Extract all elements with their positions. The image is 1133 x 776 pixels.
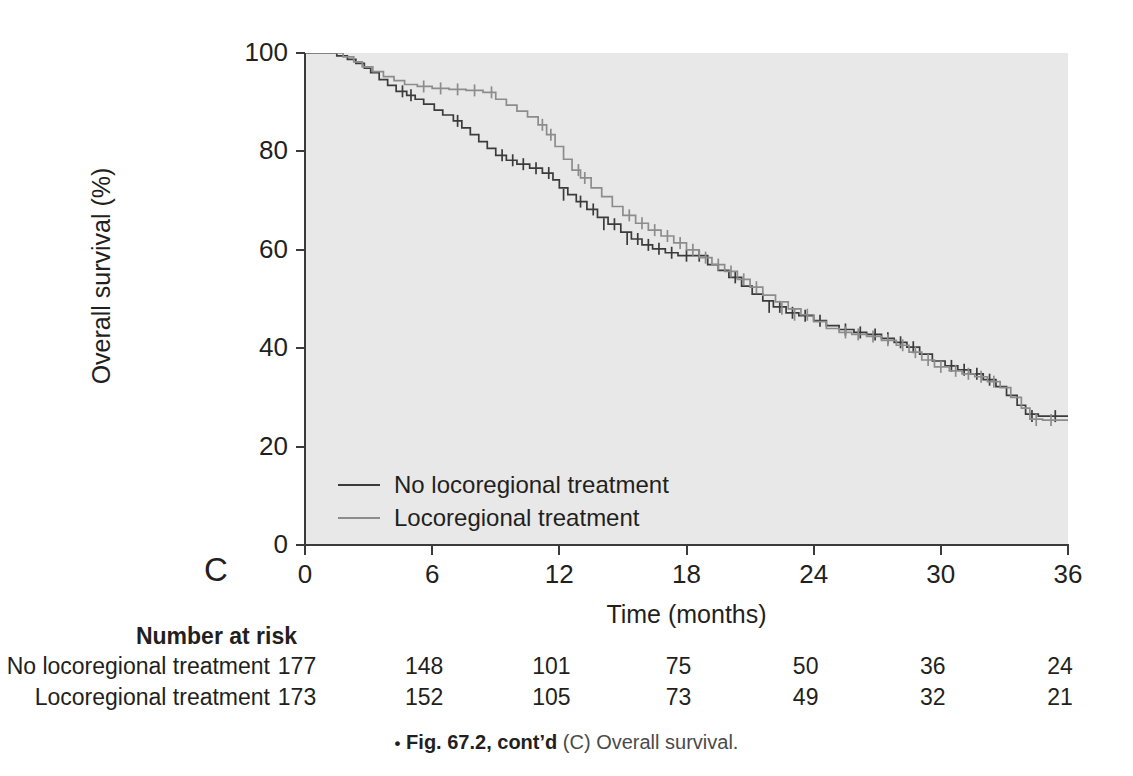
y-axis-title: Overall survival (%) [87,106,115,446]
x-axis-tick-label: 0 [275,559,335,589]
number-at-risk-row-label: Locoregional treatment [0,683,270,712]
number-at-risk-row: No locoregional treatment177148101755036… [0,652,1133,683]
x-axis-tick-label: 30 [911,559,971,589]
y-axis-tick-label: 0 [230,531,288,557]
panel-letter: C [204,552,228,588]
x-axis-tick-label: 12 [529,559,589,589]
number-at-risk-value: 177 [262,652,332,681]
x-axis-tick-label: 24 [784,559,844,589]
legend-swatch-no-locoregional [338,484,380,486]
y-axis-tick-label: 60 [230,236,288,262]
survival-curve [305,53,1068,416]
number-at-risk-value: 105 [516,683,586,712]
y-axis-tick [296,52,305,54]
x-axis-tick [304,546,306,555]
number-at-risk-value: 36 [898,652,968,681]
caption-text: (C) Overall survival. [563,731,739,753]
caption-figure-number: Fig. 67.2, cont’d [406,731,557,753]
y-axis-tick-label: 80 [230,137,288,163]
legend-label-locoregional: Locoregional treatment [394,502,639,533]
x-axis-tick-label: 36 [1038,559,1098,589]
x-axis-tick [686,546,688,555]
x-axis-tick [940,546,942,555]
number-at-risk-row: Locoregional treatment17315210573493221 [0,683,1133,714]
legend-item: Locoregional treatment [338,502,758,535]
y-axis-tick-label: 40 [230,334,288,360]
number-at-risk-value: 148 [389,652,459,681]
number-at-risk-value: 24 [1025,652,1095,681]
y-axis-line [304,53,306,546]
y-axis-tick-label: 20 [230,433,288,459]
x-axis-tick-label: 6 [402,559,462,589]
number-at-risk-value: 32 [898,683,968,712]
x-axis-tick [813,546,815,555]
x-axis-title: Time (months) [305,600,1068,628]
x-axis-tick [431,546,433,555]
number-at-risk-value: 73 [644,683,714,712]
y-axis-tick [296,249,305,251]
survival-curve [305,53,1068,420]
figure-caption: • Fig. 67.2, cont’d (C) Overall survival… [0,730,1133,756]
x-axis-tick-label: 18 [657,559,717,589]
y-axis-tick [296,150,305,152]
number-at-risk-row-label: No locoregional treatment [0,652,270,681]
figure-panel-c: 100806040200 061218243036 Overall surviv… [0,0,1133,776]
y-axis-tick [296,446,305,448]
number-at-risk-value: 50 [771,652,841,681]
x-axis-tick [558,546,560,555]
number-at-risk-value: 21 [1025,683,1095,712]
number-at-risk-value: 75 [644,652,714,681]
caption-bullet: • [395,734,401,753]
number-at-risk-value: 101 [516,652,586,681]
legend: No locoregional treatment Locoregional t… [338,469,758,535]
y-axis-tick-label: 100 [230,39,288,65]
x-axis-tick [1067,546,1069,555]
number-at-risk-value: 49 [771,683,841,712]
legend-item: No locoregional treatment [338,469,758,502]
y-axis-tick [296,347,305,349]
legend-swatch-locoregional [338,517,380,519]
number-at-risk-title: Number at risk [0,622,297,650]
number-at-risk-value: 173 [262,683,332,712]
legend-label-no-locoregional: No locoregional treatment [394,469,669,500]
number-at-risk-value: 152 [389,683,459,712]
